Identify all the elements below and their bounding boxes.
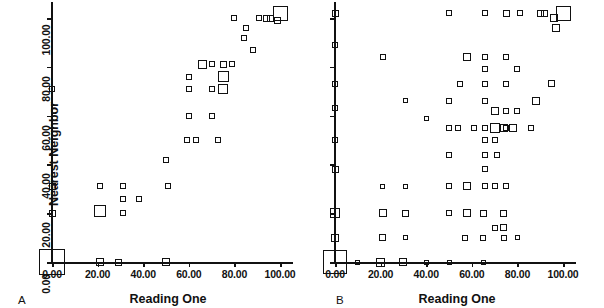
- data-point: [332, 105, 338, 111]
- data-point: [241, 35, 247, 41]
- data-point: [39, 249, 65, 275]
- data-point: [556, 6, 571, 21]
- data-point: [332, 81, 338, 87]
- x-tick-label: 80.00: [494, 268, 540, 280]
- data-point: [446, 183, 452, 189]
- data-point: [332, 137, 338, 143]
- x-axis-title-b: Reading One: [372, 292, 542, 306]
- data-point: [446, 10, 452, 16]
- data-point: [548, 80, 555, 87]
- data-point: [330, 208, 340, 218]
- x-tick-label: 20.00: [358, 268, 404, 280]
- data-point: [514, 66, 520, 72]
- data-point: [446, 98, 452, 104]
- data-point: [184, 137, 190, 143]
- data-point: [463, 53, 471, 61]
- data-point: [186, 74, 192, 80]
- data-point: [49, 210, 56, 217]
- data-point: [492, 225, 498, 231]
- data-point: [500, 224, 507, 231]
- data-point: [323, 250, 347, 274]
- data-point: [120, 183, 126, 189]
- data-point: [500, 210, 507, 217]
- data-point: [455, 125, 461, 131]
- x-tick-label: 40.00: [403, 268, 449, 280]
- data-point: [380, 184, 385, 189]
- data-point: [94, 205, 106, 217]
- data-point: [379, 209, 387, 217]
- data-point: [120, 196, 126, 202]
- data-point: [463, 209, 471, 217]
- data-point: [399, 258, 407, 266]
- data-point: [482, 152, 488, 158]
- data-point: [482, 81, 488, 87]
- data-point: [96, 258, 104, 266]
- data-point: [209, 86, 215, 92]
- data-point: [446, 152, 452, 158]
- data-point: [490, 123, 500, 133]
- data-point: [49, 183, 56, 190]
- x-axis-title-a: Reading One: [88, 292, 248, 306]
- data-point: [376, 258, 385, 267]
- data-point: [471, 125, 477, 131]
- data-point: [163, 157, 169, 163]
- data-point: [97, 183, 103, 189]
- x-axis-line: [51, 262, 293, 264]
- data-point: [503, 81, 509, 87]
- data-point: [355, 260, 360, 265]
- x-tick-label: 60.00: [166, 268, 212, 280]
- data-point: [492, 183, 498, 189]
- data-point: [331, 234, 339, 242]
- data-point: [494, 152, 500, 158]
- data-point: [332, 42, 338, 48]
- data-point: [256, 15, 262, 21]
- data-point: [446, 210, 452, 216]
- data-point: [482, 125, 488, 131]
- data-point: [514, 108, 520, 114]
- panel-label-b: B: [336, 294, 344, 306]
- data-point: [481, 260, 486, 265]
- data-point: [115, 259, 122, 266]
- data-point: [402, 210, 409, 217]
- data-point: [186, 113, 192, 119]
- data-point: [509, 124, 517, 132]
- y-tick: [330, 18, 334, 20]
- x-tick-label: 40.00: [120, 268, 166, 280]
- data-point: [482, 98, 488, 104]
- data-point: [380, 54, 386, 60]
- y-tick-label: 60.00: [40, 115, 52, 161]
- data-point: [482, 10, 488, 16]
- x-tick: [517, 263, 519, 267]
- data-point: [528, 125, 534, 131]
- data-point: [517, 10, 523, 16]
- data-point: [379, 234, 386, 241]
- data-point: [215, 137, 221, 143]
- data-point: [332, 10, 339, 17]
- data-point: [532, 97, 540, 105]
- data-point: [482, 137, 488, 143]
- data-point: [193, 137, 199, 143]
- data-point: [332, 166, 339, 173]
- data-point: [273, 6, 288, 21]
- data-point: [515, 235, 520, 240]
- data-point: [403, 98, 408, 103]
- x-tick: [472, 263, 474, 267]
- data-point: [403, 235, 408, 240]
- x-tick: [280, 263, 282, 267]
- x-tick-label: 80.00: [211, 268, 257, 280]
- panel-label-a: A: [18, 294, 26, 306]
- data-point: [480, 235, 486, 241]
- y-tick: [330, 116, 334, 118]
- data-point: [482, 166, 488, 172]
- data-point: [503, 108, 509, 114]
- x-tick: [234, 263, 236, 267]
- x-tick: [143, 263, 145, 267]
- data-point: [243, 25, 249, 31]
- data-point: [541, 10, 548, 17]
- x-axis-line: [334, 262, 576, 264]
- data-point: [403, 184, 408, 189]
- data-point: [446, 125, 452, 131]
- x-tick-label: 60.00: [449, 268, 495, 280]
- data-point: [491, 107, 499, 115]
- data-point: [186, 86, 192, 92]
